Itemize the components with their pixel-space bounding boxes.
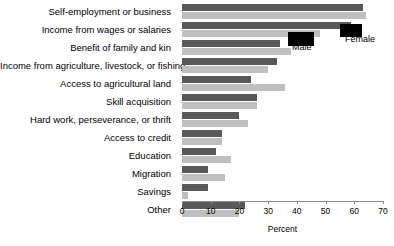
bar-group bbox=[182, 57, 383, 75]
bar-female bbox=[182, 102, 257, 109]
bar-group bbox=[182, 3, 383, 21]
x-axis-tick bbox=[326, 201, 327, 204]
bar-male bbox=[182, 184, 208, 191]
category-label: Migration bbox=[0, 165, 176, 183]
bar-female bbox=[182, 84, 285, 91]
category-label: Benefit of family and kin bbox=[0, 39, 176, 57]
bar-male bbox=[182, 148, 216, 155]
category-label: Skill acquisition bbox=[0, 93, 176, 111]
bar-group bbox=[182, 111, 383, 129]
x-axis-tick bbox=[297, 201, 298, 204]
category-label-column: Self-employment or businessIncome from w… bbox=[0, 3, 176, 219]
bar-female bbox=[182, 120, 248, 127]
x-axis-ticks: 010203040506070 bbox=[182, 201, 383, 205]
category-label: Access to credit bbox=[0, 129, 176, 147]
x-axis-tick-label: 60 bbox=[350, 206, 359, 216]
bar-female bbox=[182, 48, 291, 55]
bar-group bbox=[182, 183, 383, 201]
bar-male bbox=[182, 130, 222, 137]
bar-group bbox=[182, 75, 383, 93]
x-axis-tick-label: 10 bbox=[206, 206, 215, 216]
bar-male bbox=[182, 166, 208, 173]
x-axis-tick bbox=[239, 201, 240, 204]
bar-female bbox=[182, 174, 225, 181]
bar-male bbox=[182, 22, 351, 29]
category-label: Other bbox=[0, 201, 176, 219]
legend-item-male: Male bbox=[292, 42, 312, 52]
legend-item-female: Female bbox=[345, 34, 375, 44]
category-label: Savings bbox=[0, 183, 176, 201]
bar-female bbox=[182, 156, 231, 163]
x-axis-tick-label: 20 bbox=[235, 206, 244, 216]
x-axis-tick bbox=[211, 201, 212, 204]
x-axis-tick-label: 0 bbox=[180, 206, 185, 216]
bar-male bbox=[182, 76, 251, 83]
bar-male bbox=[182, 40, 280, 47]
x-axis-tick bbox=[354, 201, 355, 204]
bar-female bbox=[182, 138, 222, 145]
bar-chart: Self-employment or businessIncome from w… bbox=[0, 0, 394, 246]
x-axis-tick bbox=[268, 201, 269, 204]
bar-group bbox=[182, 93, 383, 111]
x-axis-tick-label: 50 bbox=[321, 206, 330, 216]
x-axis-title: Percent bbox=[182, 224, 383, 234]
bar-male bbox=[182, 112, 239, 119]
category-label: Income from agriculture, livestock, or f… bbox=[0, 57, 176, 75]
x-axis-tick-label: 70 bbox=[378, 206, 387, 216]
bar-group bbox=[182, 165, 383, 183]
bar-group bbox=[182, 129, 383, 147]
x-axis-tick-label: 30 bbox=[263, 206, 272, 216]
category-label: Hard work, perseverance, or thrift bbox=[0, 111, 176, 129]
category-label: Education bbox=[0, 147, 176, 165]
x-axis-tick bbox=[182, 201, 183, 204]
bar-female bbox=[182, 12, 366, 19]
category-label: Self-employment or business bbox=[0, 3, 176, 21]
bar-male bbox=[182, 94, 257, 101]
category-label: Income from wages or salaries bbox=[0, 21, 176, 39]
bar-female bbox=[182, 192, 188, 199]
category-label: Access to agricultural land bbox=[0, 75, 176, 93]
x-axis-tick-label: 40 bbox=[292, 206, 301, 216]
bar-male bbox=[182, 58, 277, 65]
bar-female bbox=[182, 66, 268, 73]
bar-group bbox=[182, 147, 383, 165]
bar-male bbox=[182, 4, 363, 11]
x-axis-tick bbox=[383, 201, 384, 204]
